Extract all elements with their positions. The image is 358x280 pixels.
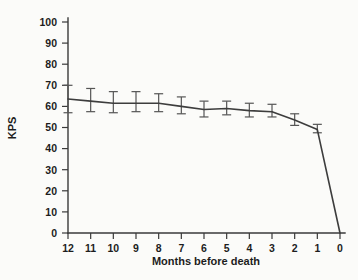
- y-tick-label-100: 100: [39, 16, 57, 28]
- x-tick-label-8: 8: [156, 242, 162, 254]
- y-tick-label-10: 10: [45, 206, 57, 218]
- y-tick-label-70: 70: [45, 79, 57, 91]
- x-tick-label-0: 0: [337, 242, 343, 254]
- y-tick-label-40: 40: [45, 142, 57, 154]
- x-tick-label-10: 10: [107, 242, 119, 254]
- x-tick-label-6: 6: [201, 242, 207, 254]
- y-tick-label-80: 80: [45, 58, 57, 70]
- x-tick-label-7: 7: [178, 242, 184, 254]
- y-tick-label-0: 0: [51, 227, 57, 239]
- x-tick-label-1: 1: [314, 242, 320, 254]
- x-tick-label-11: 11: [85, 242, 96, 254]
- x-tick-label-9: 9: [133, 242, 139, 254]
- x-tick-label-2: 2: [292, 242, 298, 254]
- y-tick-label-60: 60: [45, 100, 57, 112]
- x-axis-title: Months before death: [152, 255, 260, 267]
- x-tick-label-4: 4: [246, 242, 252, 254]
- y-axis-title: KPS: [6, 117, 18, 140]
- y-tick-label-20: 20: [45, 185, 57, 197]
- y-tick-label-50: 50: [45, 121, 57, 133]
- x-tick-label-12: 12: [62, 242, 74, 254]
- x-tick-label-5: 5: [224, 242, 230, 254]
- y-tick-label-90: 90: [45, 37, 57, 49]
- chart-figure: 0102030405060708090100 KPS 1211109876543…: [0, 0, 358, 280]
- x-tick-label-3: 3: [269, 242, 275, 254]
- kps-line-chart: 0102030405060708090100 KPS 1211109876543…: [0, 0, 358, 280]
- y-tick-label-30: 30: [45, 164, 57, 176]
